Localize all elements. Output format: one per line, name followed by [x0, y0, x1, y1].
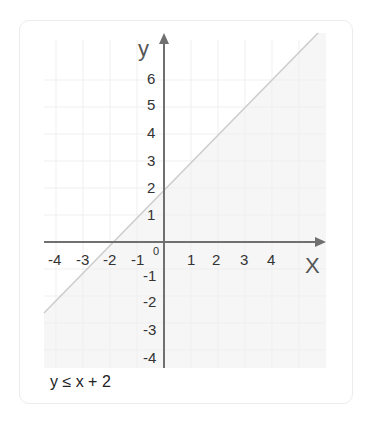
y-tick: 1	[147, 206, 155, 223]
inequality-graph: y X 0 -4 -3 -2 -1 1 2 3 4 6 5 4 3 2 1 -1…	[0, 0, 372, 422]
x-tick: -1	[131, 251, 144, 268]
origin-label: 0	[153, 245, 159, 257]
shaded-region	[44, 33, 326, 368]
x-tick: -2	[103, 251, 116, 268]
x-tick: -4	[48, 251, 61, 268]
x-tick: 2	[212, 251, 220, 268]
x-tick: -3	[76, 251, 89, 268]
y-tick: -1	[143, 267, 156, 284]
x-tick: 1	[187, 251, 195, 268]
y-tick: -2	[143, 293, 156, 310]
y-tick: 3	[147, 152, 155, 169]
inequality-formula: y ≤ x + 2	[50, 373, 111, 391]
y-axis-arrow-icon	[159, 33, 169, 44]
y-tick: 6	[147, 70, 155, 87]
x-axis-label: X	[305, 253, 320, 278]
x-tick: 4	[267, 251, 275, 268]
y-tick: -3	[143, 321, 156, 338]
y-tick: 5	[147, 96, 155, 113]
y-axis-label: y	[138, 36, 149, 61]
y-tick: 2	[147, 179, 155, 196]
x-tick: 3	[240, 251, 248, 268]
y-tick: -4	[143, 349, 156, 366]
y-tick: 4	[147, 124, 155, 141]
